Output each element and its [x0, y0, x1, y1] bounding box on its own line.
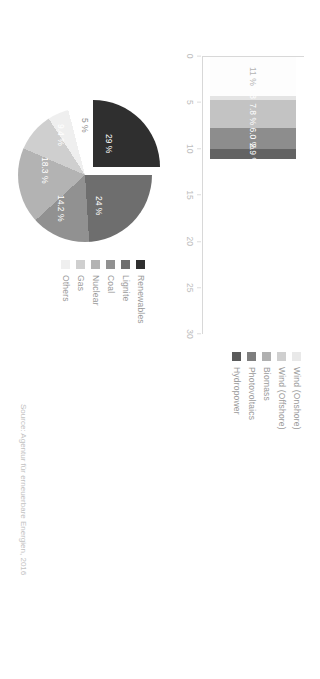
- bar-chart-legend: Wind (Onshore) Wind (Offshore) Biomass P…: [232, 352, 302, 430]
- legend-label: Coal: [106, 275, 116, 293]
- legend-item: Others: [61, 260, 71, 324]
- axis-tick: 5: [185, 100, 201, 105]
- bar-axis-ticks: 0 5 10 15 20 25 30: [179, 56, 201, 334]
- legend-item: Nuclear: [91, 260, 101, 324]
- axis-tick: 0: [185, 54, 201, 59]
- pie-slice-label-nuclear: 18.3 %: [40, 157, 50, 183]
- axis-tick: 30: [185, 329, 201, 338]
- pie-slice-label-gas: 9.4 %: [56, 124, 66, 146]
- stacked-bar: 11 % 1.3 % 7.8 % 6.0 % 2.9 %: [210, 57, 296, 163]
- axis-tick: 25: [185, 283, 201, 292]
- legend-swatch-photovoltaics: [248, 352, 257, 361]
- bar-segment-label: 7.8 %: [248, 103, 258, 125]
- legend-item: Coal: [106, 260, 116, 324]
- source-note: Source: Agentur für erneuerbare Energien…: [19, 404, 28, 575]
- legend-item: Photovoltaics: [247, 352, 257, 430]
- bar-segment-label: 2.9 %: [248, 143, 258, 165]
- legend-label: Photovoltaics: [247, 367, 257, 420]
- legend-label: Others: [61, 275, 71, 302]
- legend-item: Wind (Onshore): [292, 352, 302, 430]
- legend-item: Biomass: [262, 352, 272, 430]
- legend-label: Wind (Onshore): [292, 367, 302, 430]
- infographic-canvas: 11 % 1.3 % 7.8 % 6.0 % 2.9 %: [0, 0, 320, 679]
- legend-label: Gas: [76, 275, 86, 291]
- legend-label: Renewables: [136, 275, 146, 324]
- legend-swatch-coal: [107, 260, 116, 269]
- bar-segment-biomass: 7.8 %: [210, 100, 296, 127]
- legend-swatch-wind-offshore: [278, 352, 287, 361]
- legend-swatch-lignite: [122, 260, 131, 269]
- legend-swatch-others: [62, 260, 71, 269]
- legend-label: Hydropower: [232, 367, 242, 415]
- pie-slice-label-others: 5 %: [80, 118, 90, 133]
- legend-item: Renewables: [136, 260, 146, 324]
- legend-item: Lignite: [121, 260, 131, 324]
- legend-item: Wind (Offshore): [277, 352, 287, 430]
- pie-plot-area: 29 % 24 % 14.2 % 18.3 % 9.4 % 5 %: [10, 100, 160, 250]
- axis-tick: 15: [185, 190, 201, 199]
- legend-item: Gas: [76, 260, 86, 324]
- legend-label: Lignite: [121, 275, 131, 301]
- screenshot-frame: 11 % 1.3 % 7.8 % 6.0 % 2.9 %: [0, 0, 320, 679]
- pie-slice-label-lignite: 24 %: [94, 196, 104, 215]
- axis-tick: 20: [185, 237, 201, 246]
- bar-chart: 11 % 1.3 % 7.8 % 6.0 % 2.9 %: [164, 22, 304, 340]
- bar-plot-area: 11 % 1.3 % 7.8 % 6.0 % 2.9 %: [203, 56, 304, 334]
- legend-swatch-biomass: [263, 352, 272, 361]
- legend-label: Biomass: [262, 367, 272, 401]
- bar-segment-label: 11 %: [248, 67, 258, 86]
- bar-segment-hydropower: 2.9 %: [210, 149, 296, 159]
- legend-label: Wind (Offshore): [277, 367, 287, 430]
- pie-slice-label-coal: 14.2 %: [56, 195, 66, 221]
- legend-item: Hydropower: [232, 352, 242, 430]
- legend-swatch-gas: [77, 260, 86, 269]
- legend-swatch-wind-onshore: [293, 352, 302, 361]
- pie-chart-legend: Renewables Lignite Coal Nuclear Gas: [61, 260, 146, 324]
- pie-slice-label-renewables: 29 %: [104, 134, 114, 153]
- axis-tick: 10: [185, 144, 201, 153]
- legend-label: Nuclear: [91, 275, 101, 306]
- legend-swatch-renewables: [137, 260, 146, 269]
- bar-axis-line: [202, 56, 203, 334]
- pie-chart: 29 % 24 % 14.2 % 18.3 % 9.4 % 5 % Renewa…: [12, 22, 152, 352]
- legend-swatch-hydropower: [233, 352, 242, 361]
- legend-swatch-nuclear: [92, 260, 101, 269]
